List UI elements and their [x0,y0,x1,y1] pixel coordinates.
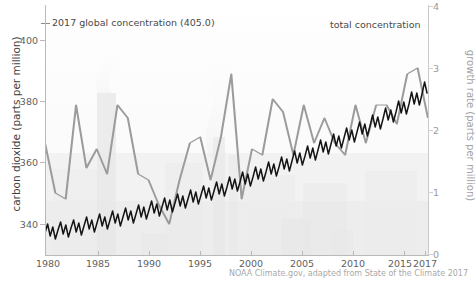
chart-credit: NOAA Climate.gov, adapted from State of … [0,269,468,278]
y-tick-mark-380 [40,101,45,102]
x-tick-label-1980: 1980 [36,258,60,269]
y2-tick-mark-2 [428,130,433,131]
x-tick-mark-2017 [425,251,426,256]
plot-area: 2017 global concentration (405.0) total … [45,5,428,255]
x-tick-label-1995: 1995 [188,258,212,269]
x-tick-mark-2000 [251,251,252,256]
y-axis-right-title: growth rate (parts per million) [465,31,476,221]
x-tick-mark-1990 [149,251,150,256]
x-tick-mark-2010 [353,251,354,256]
y2-tick-label-4: 4 [433,1,439,12]
x-tick-label-2005: 2005 [290,258,314,269]
x-tick-mark-1985 [98,251,99,256]
x-tick-label-2000: 2000 [239,258,263,269]
x-tick-label-1985: 1985 [86,258,110,269]
y2-tick-mark-0 [428,254,433,255]
data-curves [45,5,428,255]
y2-tick-mark-1 [428,192,433,193]
y2-tick-label-1: 1 [433,187,439,198]
y-tick-mark-360 [40,162,45,163]
x-tick-mark-1980 [45,251,46,256]
x-tick-label-2010: 2010 [341,258,365,269]
y-tick-mark-340 [40,224,45,225]
y2-tick-label-3: 3 [433,63,439,74]
y-axis-left-title: carbon dioxide (parts per million) [10,24,22,224]
x-tick-label-1990: 1990 [137,258,161,269]
y2-tick-mark-4 [428,6,433,7]
x-tick-mark-2005 [302,251,303,256]
annotation-total-concentration: total concentration [330,19,421,30]
y-axis-left-line [45,5,46,256]
x-tick-label-2015: 2015 [388,258,412,269]
x-tick-mark-1995 [200,251,201,256]
annotation-global-concentration: 2017 global concentration (405.0) [52,17,215,28]
x-tick-label-2017: 2017 [413,258,437,269]
chart-title [0,0,475,3]
y2-tick-label-2: 2 [433,125,439,136]
x-tick-mark-2015 [404,251,405,256]
growth-rate-line [45,68,428,224]
y2-tick-mark-3 [428,68,433,69]
y-tick-mark-400 [40,40,45,41]
x-axis-line [45,255,429,256]
